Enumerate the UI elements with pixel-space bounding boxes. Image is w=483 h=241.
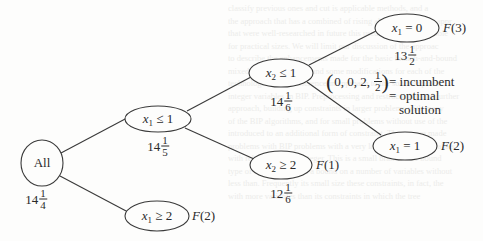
bound-whole: 14 [270,93,283,109]
denominator: 5 [162,147,168,158]
solution-label: solution [399,102,441,118]
fathom-test: (3) [451,20,466,35]
operator: = [403,138,410,153]
var-subscript: 1 [395,145,400,155]
edge-x1le1-x2ge2 [185,128,254,159]
vector-fraction: 12 [374,70,382,93]
fathom-label-x1-eq-0: F(3) [443,20,466,36]
edge-x1le1-x2le1 [187,77,251,111]
bound-whole: 14 [147,138,160,154]
left-paren: ( [326,71,333,93]
denominator: 2 [409,56,415,67]
bound-whole: 13 [394,47,407,63]
value: 1 [167,111,174,126]
bound-x1-le-1: 14 15 [147,135,169,158]
node-x1-eq-1-label: x1 = 1 [390,138,421,155]
node-x1-ge-2-label: x1 ≥ 2 [142,208,172,225]
incumbent-vector: ( 0, 0, 2, 12 ) [326,70,389,93]
denominator: 4 [40,200,46,211]
node-label-text: All [34,155,51,170]
node-x1-le-1-label: x1 ≤ 1 [143,111,173,128]
vector-values: 0, 0, 2, [334,74,370,90]
operator: ≤ [156,111,163,126]
var-subscript: 2 [272,164,277,174]
fathom-test: (2) [449,138,464,153]
denominator: 2 [375,82,381,93]
denominator: 6 [285,194,291,205]
fathom-letter: F [443,20,451,35]
edge-all-x1le1 [61,118,127,153]
node-x2-ge-2-label: x2 ≥ 2 [266,157,296,174]
right-paren: ) [382,71,389,93]
bound-x2-ge-2: 12 16 [270,182,292,205]
edge-all-x1ge2 [60,176,128,212]
edge-x2le1-x1eq0 [309,30,378,65]
bound-whole: 14 [25,191,38,207]
operator: = [405,20,412,35]
bound-all: 14 14 [25,188,47,211]
bound-fraction: 16 [284,90,292,113]
value: 2 [166,208,173,223]
value: 0 [416,20,423,35]
node-x2-le-1-label: x2 ≤ 1 [266,65,296,82]
var-subscript: 2 [272,72,277,82]
bound-whole: 12 [270,185,283,201]
bound-fraction: 16 [284,182,292,205]
operator: ≥ [155,208,162,223]
var-subscript: 1 [149,118,154,128]
fathom-test: (2) [200,208,215,223]
bound-x1-eq-0: 13 12 [394,44,416,67]
operator: ≤ [279,65,286,80]
bound-fraction: 14 [39,188,47,211]
fathom-label-x2-ge-2: F(1) [316,157,339,173]
fathom-label-x1-ge-2: F(2) [192,208,215,224]
fathom-test: (1) [324,157,339,172]
bound-x2-le-1: 14 16 [270,90,292,113]
vector: ( 0, 0, 2, 12 ) [326,70,389,93]
node-x1-eq-0-label: x1 = 0 [392,20,423,37]
fathom-label-x1-eq-1: F(2) [441,138,464,154]
denominator: 6 [285,102,291,113]
fathom-letter: F [316,157,324,172]
operator: ≥ [279,157,286,172]
value: 2 [290,157,297,172]
fathom-letter: F [441,138,449,153]
value: 1 [290,65,297,80]
var-subscript: 1 [397,27,402,37]
node-all-label: All [34,155,51,171]
var-subscript: 1 [148,215,153,225]
bound-fraction: 12 [408,44,416,67]
fathom-letter: F [192,208,200,223]
value: 1 [414,138,421,153]
bound-fraction: 15 [161,135,169,158]
